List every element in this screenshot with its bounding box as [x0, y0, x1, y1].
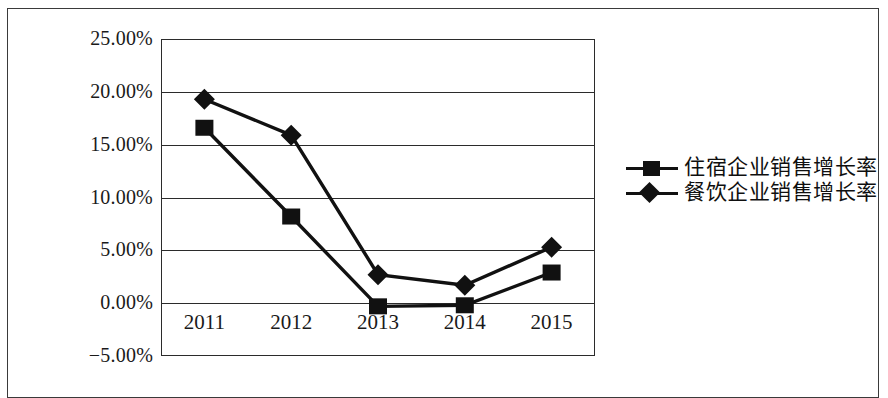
data-point-marker — [369, 298, 387, 314]
data-point-marker — [281, 125, 302, 146]
legend-item[interactable]: 住宿企业销售增长率 — [626, 155, 876, 180]
legend-item[interactable]: 餐饮企业销售增长率 — [626, 180, 876, 205]
data-point-marker — [194, 89, 215, 110]
data-point-marker — [541, 237, 562, 258]
chart-legend: 住宿企业销售增长率餐饮企业销售增长率 — [626, 155, 876, 205]
data-point-marker — [543, 265, 561, 281]
data-point-marker — [195, 120, 213, 136]
data-point-marker — [454, 275, 475, 296]
data-point-marker — [282, 209, 300, 225]
legend-key — [626, 182, 678, 204]
square-marker-icon — [643, 161, 660, 176]
legend-label: 餐饮企业销售增长率 — [684, 181, 878, 204]
series-line — [204, 99, 551, 285]
legend-label: 住宿企业销售增长率 — [684, 156, 878, 179]
diamond-marker-icon — [639, 181, 660, 202]
data-point-marker — [456, 297, 474, 313]
data-point-marker — [368, 264, 389, 285]
legend-key — [626, 157, 678, 179]
